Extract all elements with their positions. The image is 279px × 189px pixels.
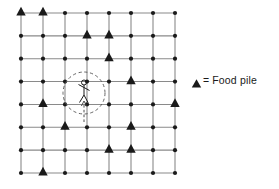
figure-root: = Food pile	[0, 0, 279, 189]
triangle-icon	[191, 75, 202, 86]
legend: = Food pile	[191, 75, 257, 86]
legend-label: Food pile	[212, 75, 257, 86]
lattice-diagram	[0, 0, 279, 189]
legend-equals-sign: =	[203, 75, 209, 86]
